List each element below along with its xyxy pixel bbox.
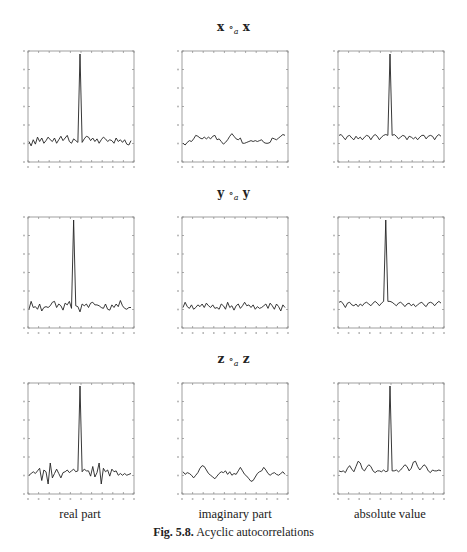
x-tick-label <box>192 332 194 334</box>
x-tick-label <box>234 166 236 168</box>
x-tick-label <box>70 166 72 168</box>
x-tick-label <box>181 498 183 500</box>
y-tick-label <box>333 161 335 163</box>
y-tick-label <box>333 235 335 237</box>
y-tick-label <box>333 124 335 126</box>
row-title-left: y <box>217 186 224 200</box>
line-plot <box>181 216 289 339</box>
data-series-line <box>29 220 131 312</box>
x-tick-label <box>59 498 61 500</box>
y-tick-label <box>177 438 179 440</box>
y-tick-label <box>333 106 335 108</box>
y-tick-label <box>177 253 179 255</box>
x-tick-label <box>422 332 424 334</box>
y-tick-label <box>23 235 25 237</box>
x-tick-label <box>287 166 289 168</box>
y-tick-label <box>333 69 335 71</box>
plot-x-abs <box>337 50 445 170</box>
line-plot <box>27 50 135 173</box>
y-tick-label <box>177 216 179 218</box>
x-tick-label <box>91 332 93 334</box>
y-tick-label <box>23 493 25 495</box>
row-title-left: z <box>217 352 224 366</box>
x-tick-label <box>112 166 114 168</box>
y-tick-label <box>177 143 179 145</box>
x-tick-label <box>422 166 424 168</box>
x-tick-label <box>202 498 204 500</box>
x-tick-label <box>91 166 93 168</box>
x-tick-label <box>59 166 61 168</box>
x-tick-label <box>380 498 382 500</box>
x-tick-label <box>245 498 247 500</box>
y-tick-label <box>23 438 25 440</box>
x-tick-label <box>80 332 82 334</box>
line-plot <box>337 382 445 505</box>
x-tick-label <box>277 332 279 334</box>
x-tick-label <box>369 166 371 168</box>
x-tick-label <box>202 166 204 168</box>
x-tick-label <box>433 166 435 168</box>
y-tick-label <box>23 161 25 163</box>
x-tick-label <box>101 332 103 334</box>
x-tick-label <box>27 332 29 334</box>
y-tick-label <box>23 50 25 52</box>
x-tick-label <box>59 332 61 334</box>
x-tick-label <box>401 332 403 334</box>
data-series-line <box>183 134 285 145</box>
y-tick-label <box>177 50 179 52</box>
data-series-line <box>339 386 441 473</box>
x-tick-label <box>401 498 403 500</box>
x-tick-label <box>234 332 236 334</box>
row-title-z: z ∘a z <box>0 352 467 368</box>
data-series-line <box>339 220 441 308</box>
x-tick-label <box>133 498 135 500</box>
y-tick-label <box>333 438 335 440</box>
x-tick-label <box>213 332 215 334</box>
x-tick-label <box>380 166 382 168</box>
y-tick-label <box>333 272 335 274</box>
y-tick-label <box>177 87 179 89</box>
x-tick-label <box>390 498 392 500</box>
line-plot <box>27 382 135 505</box>
x-tick-label <box>133 166 135 168</box>
plot-frame <box>338 217 444 328</box>
x-tick-label <box>213 166 215 168</box>
plot-frame <box>182 51 288 162</box>
plot-z-abs <box>337 382 445 502</box>
plot-frame <box>182 217 288 328</box>
x-tick-label <box>245 166 247 168</box>
x-tick-label <box>433 332 435 334</box>
data-series-line <box>339 54 441 140</box>
y-tick-label <box>333 419 335 421</box>
figure-caption-text: Acyclic autocorrelations <box>196 525 314 539</box>
x-tick-label <box>348 498 350 500</box>
line-plot <box>27 216 135 339</box>
y-tick-label <box>23 106 25 108</box>
x-tick-label <box>337 166 339 168</box>
x-tick-label <box>181 332 183 334</box>
x-tick-label <box>245 332 247 334</box>
plot-y-imag <box>181 216 289 336</box>
y-tick-label <box>23 124 25 126</box>
x-tick-label <box>390 166 392 168</box>
y-tick-label <box>177 235 179 237</box>
y-tick-label <box>333 493 335 495</box>
x-tick-label <box>38 332 40 334</box>
data-series-line <box>183 466 285 482</box>
y-tick-label <box>23 253 25 255</box>
plot-y-abs <box>337 216 445 336</box>
y-tick-label <box>333 382 335 384</box>
column-label-absolute: absolute value <box>320 507 460 522</box>
x-tick-label <box>277 498 279 500</box>
x-tick-label <box>358 166 360 168</box>
y-tick-label <box>177 382 179 384</box>
x-tick-label <box>266 166 268 168</box>
row-title-right: x <box>243 20 250 34</box>
x-tick-label <box>192 166 194 168</box>
y-tick-label <box>177 272 179 274</box>
y-tick-label <box>23 419 25 421</box>
x-tick-label <box>112 332 114 334</box>
x-tick-label <box>27 498 29 500</box>
figure-caption-label: Fig. 5.8. <box>153 525 194 539</box>
x-tick-label <box>224 498 226 500</box>
